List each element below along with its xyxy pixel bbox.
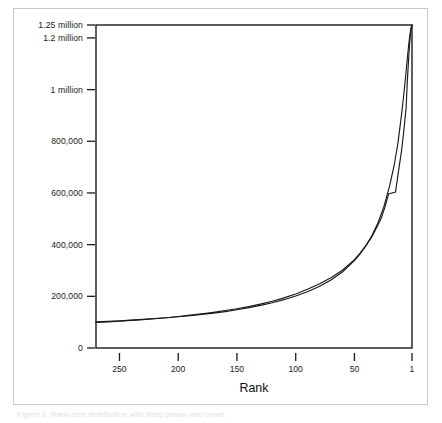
plot-frame [96,25,412,348]
x-axis-title: Rank [96,381,412,395]
y-tick-label: 1 million [0,85,83,95]
plot-frame-rect [96,25,412,348]
x-tick-label: 150 [217,364,257,374]
y-tick-label: 400,000 [0,240,83,250]
x-axis-ticks [119,353,412,361]
y-axis-ticks [87,25,95,348]
x-tick-label: 250 [99,364,139,374]
y-tick-label: 800,000 [0,136,83,146]
figure-caption: Figure 1. Rank-size distribution with fi… [17,409,417,421]
x-tick-label: 1 [392,364,432,374]
y-tick-label: 1.25 million [0,20,83,30]
y-tick-label: 200,000 [0,291,83,301]
rank-size-chart: 0200,000400,000600,000800,0001 million1.… [0,0,442,423]
x-tick-label: 200 [158,364,198,374]
plot-svg [0,0,442,423]
y-tick-label: 600,000 [0,188,83,198]
x-tick-label: 100 [276,364,316,374]
y-tick-label: 1.2 million [0,33,83,43]
y-tick-label: 0 [0,343,83,353]
x-tick-label: 50 [334,364,374,374]
